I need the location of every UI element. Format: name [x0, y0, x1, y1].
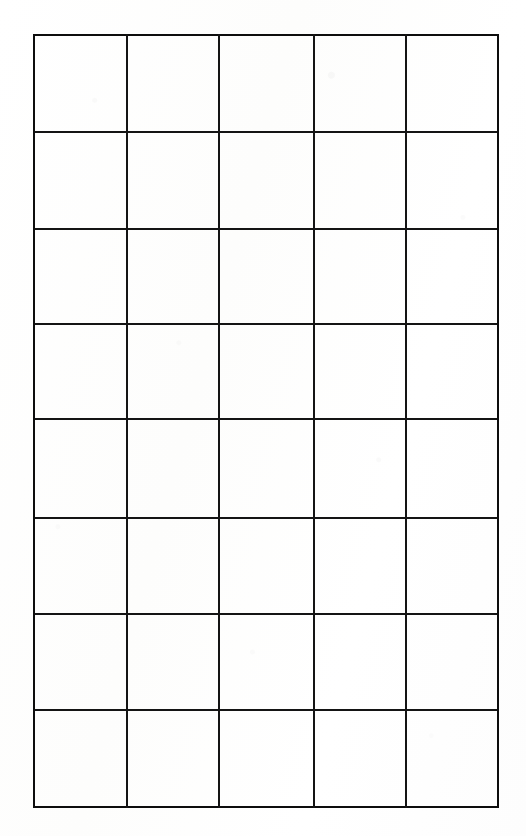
grid-cell-r1-c1[interactable]	[35, 36, 126, 131]
blank-grid-table	[0, 0, 526, 836]
grid-cell-r3-c4[interactable]	[315, 230, 405, 323]
grid-cell-r5-c3[interactable]	[220, 420, 313, 517]
grid-column-divider-3	[313, 34, 315, 808]
grid-row-divider-7	[33, 709, 499, 711]
grid-cell-r7-c2[interactable]	[128, 615, 218, 709]
grid-cell-r1-c4[interactable]	[315, 36, 405, 131]
grid-border-left	[33, 34, 35, 808]
grid-cell-r4-c2[interactable]	[128, 325, 218, 418]
grid-cell-r7-c1[interactable]	[35, 615, 126, 709]
grid-cell-r1-c2[interactable]	[128, 36, 218, 131]
grid-cell-r8-c3[interactable]	[220, 711, 313, 806]
grid-row-divider-6	[33, 613, 499, 615]
grid-cell-r4-c4[interactable]	[315, 325, 405, 418]
grid-cell-r4-c1[interactable]	[35, 325, 126, 418]
grid-row-divider-1	[33, 131, 499, 133]
grid-cell-r6-c2[interactable]	[128, 519, 218, 613]
grid-column-divider-2	[218, 34, 220, 808]
grid-cell-r7-c5[interactable]	[407, 615, 497, 709]
grid-cell-r2-c4[interactable]	[315, 133, 405, 228]
grid-cell-r5-c4[interactable]	[315, 420, 405, 517]
grid-cell-r6-c1[interactable]	[35, 519, 126, 613]
grid-cell-r4-c3[interactable]	[220, 325, 313, 418]
grid-row-divider-5	[33, 517, 499, 519]
grid-border-top	[33, 34, 499, 36]
page-canvas	[0, 0, 526, 836]
grid-row-divider-4	[33, 418, 499, 420]
grid-column-divider-4	[405, 34, 407, 808]
grid-row-divider-2	[33, 228, 499, 230]
grid-cell-r7-c3[interactable]	[220, 615, 313, 709]
grid-cell-r7-c4[interactable]	[315, 615, 405, 709]
grid-cell-r8-c5[interactable]	[407, 711, 497, 806]
grid-cell-r1-c3[interactable]	[220, 36, 313, 131]
grid-cell-r3-c3[interactable]	[220, 230, 313, 323]
grid-cell-r2-c5[interactable]	[407, 133, 497, 228]
grid-cell-r3-c5[interactable]	[407, 230, 497, 323]
grid-cell-r6-c3[interactable]	[220, 519, 313, 613]
grid-column-divider-1	[126, 34, 128, 808]
grid-cell-r6-c5[interactable]	[407, 519, 497, 613]
grid-cell-r8-c2[interactable]	[128, 711, 218, 806]
grid-cell-r5-c2[interactable]	[128, 420, 218, 517]
grid-cell-r5-c1[interactable]	[35, 420, 126, 517]
grid-row-divider-3	[33, 323, 499, 325]
grid-cell-r3-c1[interactable]	[35, 230, 126, 323]
grid-cell-r6-c4[interactable]	[315, 519, 405, 613]
grid-cell-r2-c3[interactable]	[220, 133, 313, 228]
grid-cell-r5-c5[interactable]	[407, 420, 497, 517]
grid-cell-r2-c1[interactable]	[35, 133, 126, 228]
grid-cell-r8-c1[interactable]	[35, 711, 126, 806]
grid-border-right	[497, 34, 499, 808]
grid-cell-r4-c5[interactable]	[407, 325, 497, 418]
grid-cell-r2-c2[interactable]	[128, 133, 218, 228]
grid-cell-r3-c2[interactable]	[128, 230, 218, 323]
grid-border-bottom	[33, 806, 499, 808]
grid-cell-r1-c5[interactable]	[407, 36, 497, 131]
grid-cell-r8-c4[interactable]	[315, 711, 405, 806]
